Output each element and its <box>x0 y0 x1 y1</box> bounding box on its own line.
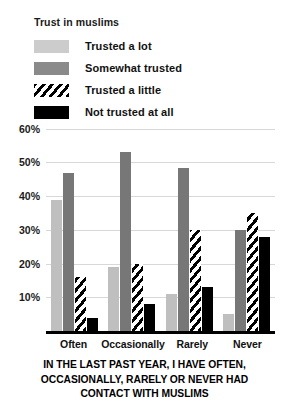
bar-group-rarely <box>161 122 218 331</box>
legend-title: Trust in muslims <box>34 16 264 28</box>
x-tick-label: Occasionally <box>101 338 165 350</box>
chart-legend: Trust in muslims Trusted a lot Somewhat … <box>34 16 264 123</box>
chart-caption: IN THE LAST PAST YEAR, I HAVE OFTEN, OCC… <box>12 358 277 402</box>
y-tick-label: 40% <box>19 190 40 202</box>
bar-trusted-a-little <box>190 230 201 331</box>
y-tick-label: 60% <box>19 123 40 135</box>
bar-group-never <box>218 122 275 331</box>
light-gray-swatch-icon <box>34 40 69 53</box>
bars-layer <box>46 122 275 331</box>
bar-trusted-a-lot <box>51 200 62 331</box>
bar-trusted-a-lot <box>166 294 177 331</box>
y-tick-label: 50% <box>19 156 40 168</box>
x-tick-label: Rarely <box>165 338 220 350</box>
y-tick-label: 30% <box>19 224 40 236</box>
bar-somewhat-trusted <box>178 168 189 331</box>
caption-line-2: OCCASIONALLY, RARELY OR NEVER HAD <box>12 373 277 388</box>
bar-chart: Trust in muslims Trusted a lot Somewhat … <box>0 0 289 413</box>
x-tick-label: Often <box>46 338 101 350</box>
bar-trusted-a-lot <box>223 314 234 331</box>
legend-item-label: Trusted a little <box>85 84 161 96</box>
bar-somewhat-trusted <box>235 230 246 331</box>
hatched-swatch-icon <box>34 84 69 97</box>
x-tick-label: Never <box>220 338 275 350</box>
bar-trusted-a-little <box>247 213 258 331</box>
bar-group-occasionally <box>103 122 160 331</box>
bar-not-trusted-at-all <box>202 287 213 331</box>
bar-trusted-a-little <box>75 277 86 331</box>
legend-item-trusted-a-lot: Trusted a lot <box>34 35 264 57</box>
legend-item-label: Somewhat trusted <box>85 62 182 74</box>
legend-item-not-trusted-at-all: Not trusted at all <box>34 101 264 123</box>
legend-item-trusted-a-little: Trusted a little <box>34 79 264 101</box>
bar-trusted-a-lot <box>108 267 119 331</box>
y-axis: 60%50%40%30%20%10% <box>0 122 44 342</box>
legend-item-somewhat-trusted: Somewhat trusted <box>34 57 264 79</box>
caption-line-3: CONTACT WITH MUSLIMS <box>12 387 277 402</box>
legend-item-label: Trusted a lot <box>85 40 152 52</box>
black-swatch-icon <box>34 106 69 119</box>
x-axis-baseline <box>46 331 275 334</box>
caption-line-1: IN THE LAST PAST YEAR, I HAVE OFTEN, <box>12 358 277 373</box>
medium-gray-swatch-icon <box>34 62 69 75</box>
bar-group-often <box>46 122 103 331</box>
bar-somewhat-trusted <box>63 173 74 331</box>
plot-area <box>46 122 275 334</box>
x-axis: OftenOccasionallyRarelyNever <box>46 338 275 350</box>
bar-somewhat-trusted <box>120 152 131 331</box>
bar-not-trusted-at-all <box>144 304 155 331</box>
y-tick-label: 10% <box>19 291 40 303</box>
bar-trusted-a-little <box>132 264 143 331</box>
bar-not-trusted-at-all <box>259 237 270 331</box>
plot-region: 60%50%40%30%20%10% <box>0 122 289 342</box>
bar-not-trusted-at-all <box>87 318 98 331</box>
legend-item-label: Not trusted at all <box>85 106 174 118</box>
y-tick-label: 20% <box>19 258 40 270</box>
